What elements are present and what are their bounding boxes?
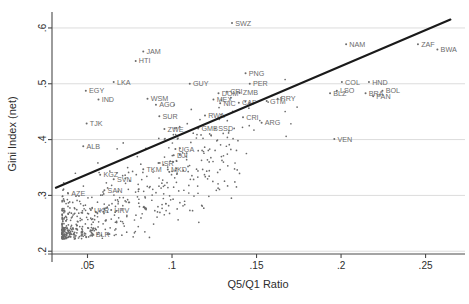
data-point <box>210 157 212 159</box>
data-point <box>66 232 68 234</box>
data-point <box>192 210 194 212</box>
data-point <box>203 151 205 153</box>
data-point <box>97 216 99 218</box>
data-point <box>163 193 165 195</box>
data-point <box>97 226 99 228</box>
data-point <box>165 203 167 205</box>
data-point <box>196 168 198 170</box>
y-tick-label: .3 <box>38 191 49 200</box>
data-point <box>69 230 71 232</box>
data-point <box>79 217 81 219</box>
data-point <box>231 197 233 199</box>
data-point <box>134 232 136 234</box>
data-point <box>82 226 84 228</box>
data-point <box>74 238 76 240</box>
data-point <box>106 182 108 184</box>
data-point <box>78 212 80 214</box>
data-point <box>227 185 229 187</box>
data-point <box>97 98 99 100</box>
data-point <box>169 213 171 215</box>
y-tick-label: .5 <box>38 79 49 88</box>
data-point <box>208 170 210 172</box>
data-point <box>132 236 134 238</box>
data-point <box>62 235 64 237</box>
data-point <box>202 169 204 171</box>
data-point <box>142 168 144 170</box>
data-point <box>149 237 151 239</box>
data-point <box>61 222 63 224</box>
data-point <box>284 111 286 113</box>
data-point <box>81 231 83 233</box>
point-label: ALB <box>86 142 100 151</box>
data-point <box>157 211 159 213</box>
data-point <box>368 81 370 83</box>
data-point <box>82 145 84 147</box>
data-point <box>146 176 148 178</box>
data-point <box>135 60 137 62</box>
data-point <box>226 145 228 147</box>
data-point <box>82 210 84 212</box>
data-point <box>72 214 74 216</box>
data-point <box>214 150 216 152</box>
data-point <box>176 181 178 183</box>
data-point <box>164 138 166 140</box>
data-point <box>261 122 263 124</box>
data-point <box>159 212 161 214</box>
data-point <box>220 144 222 146</box>
data-point <box>178 190 180 192</box>
data-point <box>63 208 65 210</box>
data-point <box>61 237 63 239</box>
data-point <box>66 228 68 230</box>
data-point <box>68 202 70 204</box>
point-label: ARG <box>265 118 281 127</box>
data-point <box>176 160 178 162</box>
data-point <box>126 215 128 217</box>
data-point <box>161 182 163 184</box>
data-point <box>207 159 209 161</box>
data-point <box>212 161 214 163</box>
data-point <box>166 182 168 184</box>
point-label: BWA <box>441 45 457 54</box>
data-point <box>177 138 179 140</box>
data-point <box>209 133 211 135</box>
chart-background <box>0 0 469 304</box>
data-point <box>204 174 206 176</box>
data-point <box>61 229 63 231</box>
data-point <box>217 187 219 189</box>
data-point <box>173 154 175 156</box>
data-point <box>61 210 63 212</box>
data-point <box>142 50 144 52</box>
data-point <box>172 198 174 200</box>
x-tick-label: .15 <box>250 260 264 271</box>
data-point <box>135 174 137 176</box>
data-point <box>146 185 148 187</box>
point-label: COL <box>345 78 360 87</box>
data-point <box>201 150 203 152</box>
data-point <box>232 138 234 140</box>
data-point <box>143 191 145 193</box>
data-point <box>79 200 81 202</box>
point-label: ZAF <box>421 40 435 49</box>
data-point <box>84 232 86 234</box>
data-point <box>192 132 194 134</box>
data-point <box>191 175 193 177</box>
data-point <box>62 196 64 198</box>
data-point <box>187 166 189 168</box>
data-point <box>64 236 66 238</box>
point-label: PRY <box>281 94 296 103</box>
data-point <box>417 43 419 45</box>
point-label: HND <box>372 78 388 87</box>
data-point <box>173 134 175 136</box>
data-point <box>193 195 195 197</box>
data-point <box>102 223 104 225</box>
data-point <box>204 146 206 148</box>
point-label: SVN <box>117 175 132 184</box>
data-point <box>79 220 81 222</box>
data-point <box>91 196 93 198</box>
data-point <box>61 231 63 233</box>
data-point <box>231 22 233 24</box>
data-point <box>155 192 157 194</box>
data-point <box>76 232 78 234</box>
data-point <box>164 184 166 186</box>
point-label: TJK <box>90 119 103 128</box>
